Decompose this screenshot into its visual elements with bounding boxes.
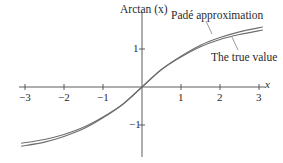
x-tick-label: −3 (19, 92, 31, 103)
pade-leader-line (206, 21, 212, 34)
x-tick-label: 1 (178, 92, 184, 103)
true-value-leader-line (232, 37, 238, 50)
y-axis-label-text: Arctan (x) (120, 3, 168, 15)
x-axis-label: x (265, 79, 270, 90)
y-axis-label: Arctan (x) (120, 4, 168, 16)
x-tick-label: 2 (217, 92, 223, 103)
arctan-chart (0, 0, 283, 163)
axes (19, 12, 265, 157)
x-tick-label: −1 (97, 92, 109, 103)
true-value-annotation: The true value (211, 52, 277, 64)
x-tick-label: 3 (256, 92, 262, 103)
x-tick-label: −2 (58, 92, 70, 103)
y-tick-label: 1 (133, 43, 139, 54)
y-tick-label: −1 (129, 119, 141, 130)
pade-annotation: Padé approximation (171, 10, 263, 22)
